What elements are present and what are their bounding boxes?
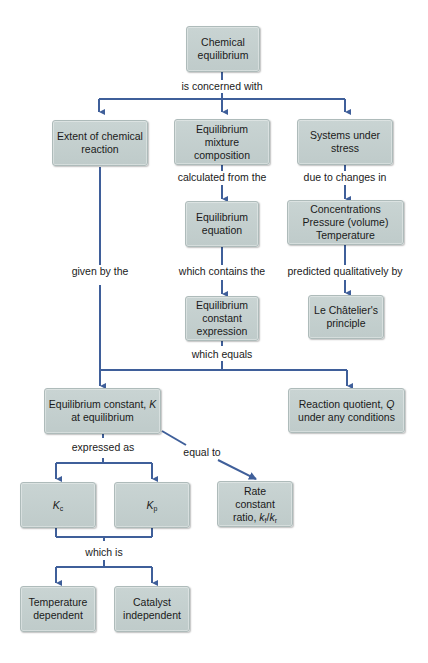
node-kc: Kc [20,482,96,528]
link-label-which-contains-the: which contains the [177,265,267,278]
change-temperature: Temperature [316,229,375,241]
node-extent-of-chemical-reaction: Extent of chemical reaction [52,120,148,166]
concept-map: Chemical equilibrium is concerned with E… [0,0,428,663]
link-label-which-equals: which equals [190,348,255,361]
link-label-expressed-as: expressed as [70,441,136,454]
link-label-due-to-changes-in: due to changes in [302,171,389,184]
k-symbol: K [149,398,156,410]
link-label-given-by-the: given by the [70,265,131,278]
node-le-chatelier-principle: Le Châtelier's principle [308,295,384,339]
node-equilibrium-equation: Equilibrium equation [185,201,259,247]
change-pressure: Pressure (volume) [303,216,389,228]
q-symbol: Q [386,398,394,410]
change-concentrations: Concentrations [310,203,381,215]
node-chemical-equilibrium: Chemical equilibrium [186,26,260,72]
node-stress-changes: Concentrations Pressure (volume) Tempera… [287,200,404,245]
link-label-calculated-from-the: calculated from the [176,171,269,184]
link-label-which-is: which is [83,546,124,559]
node-equilibrium-constant-k: Equilibrium constant, K at equilibrium [44,388,161,434]
node-kp: Kp [114,482,190,528]
node-systems-under-stress: Systems under stress [297,119,393,165]
link-label-equal-to: equal to [181,446,222,459]
node-equilibrium-constant-expression: Equilibrium constant expression [185,296,259,341]
node-reaction-quotient-q: Reaction quotient, Q under any condition… [288,388,405,433]
node-rate-constant-ratio: Rate constant ratio, kf/kr [217,481,293,527]
node-temperature-dependent: Temperature dependent [20,586,96,632]
link-label-is-concerned-with: is concerned with [179,80,264,93]
link-label-predicted-qualitatively-by: predicted qualitatively by [286,265,405,278]
node-catalyst-independent: Catalyst independent [114,586,190,632]
node-equilibrium-mixture-composition: Equilibrium mixture composition [174,119,270,165]
